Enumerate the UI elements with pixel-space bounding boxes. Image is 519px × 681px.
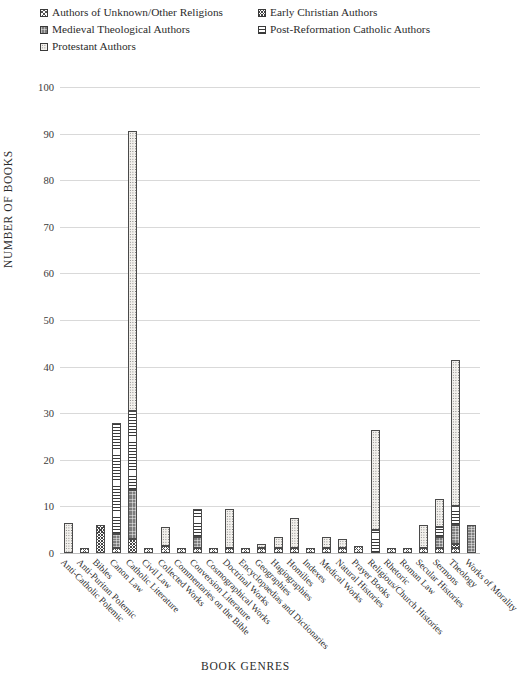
bar-natural-histories[interactable]	[338, 539, 347, 553]
y-axis-ticks: 0102030405060708090100	[24, 87, 54, 553]
bar-segment-medieval	[467, 525, 476, 553]
bar-geographies[interactable]	[257, 544, 266, 553]
bar-slot	[76, 87, 92, 553]
bar-slot	[92, 87, 108, 553]
bar-slot	[205, 87, 221, 553]
y-tick-label-40: 40	[28, 361, 54, 372]
bar-segment-protestant	[419, 525, 428, 548]
bar-segment-early	[96, 525, 105, 553]
y-tick-label-70: 70	[28, 221, 54, 232]
bar-slot	[351, 87, 367, 553]
bar-sermons[interactable]	[435, 499, 444, 553]
y-tick-label-20: 20	[28, 454, 54, 465]
bar-segment-postref	[371, 530, 380, 553]
x-axis-tick-labels: Anti-Catholic PolemicAnti-Puritan Polemi…	[60, 553, 480, 663]
bar-segment-medieval	[193, 537, 202, 549]
bar-religious-church-histories[interactable]	[371, 430, 380, 553]
bar-slot	[367, 87, 383, 553]
legend-item-early-christian-authors: Early Christian Authors	[258, 6, 377, 19]
bar-segment-unknown	[161, 546, 170, 553]
bar-series-container	[60, 87, 480, 553]
bar-slot	[448, 87, 464, 553]
legend-swatch-early-icon	[258, 9, 266, 17]
y-tick-label-30: 30	[28, 408, 54, 419]
bar-conversion-literature[interactable]	[193, 509, 202, 553]
bar-segment-postref	[451, 506, 460, 525]
legend-item-post-reformation-catholic-authors: Post-Reformation Catholic Authors	[258, 23, 430, 36]
bar-collected-works[interactable]	[161, 527, 170, 553]
y-tick-label-10: 10	[28, 501, 54, 512]
legend-label: Authors of Unknown/Other Religions	[52, 6, 223, 19]
legend-label: Protestant Authors	[52, 40, 136, 53]
y-axis-title: NUMBER OF BOOKS	[2, 150, 14, 268]
chart-legend: Authors of Unknown/Other Religions Early…	[40, 6, 480, 57]
bar-segment-unknown	[354, 546, 363, 553]
y-tick-label-50: 50	[28, 315, 54, 326]
bar-slot	[173, 87, 189, 553]
bar-segment-protestant	[451, 360, 460, 507]
legend-swatch-unknown-icon	[40, 9, 48, 17]
bar-segment-protestant	[128, 131, 137, 411]
bar-slot	[432, 87, 448, 553]
bar-segment-protestant	[225, 509, 234, 549]
bar-slot	[464, 87, 480, 553]
bar-slot	[157, 87, 173, 553]
bar-segment-medieval	[451, 525, 460, 544]
bar-prayer-books[interactable]	[354, 546, 363, 553]
bar-segment-protestant	[338, 539, 347, 548]
bar-slot	[286, 87, 302, 553]
bar-theology[interactable]	[451, 360, 460, 553]
bar-medical-works[interactable]	[322, 537, 331, 553]
bar-anti-catholic-polemic[interactable]	[64, 523, 73, 553]
legend-label: Post-Reformation Catholic Authors	[270, 23, 430, 36]
bar-slot	[189, 87, 205, 553]
bar-segment-protestant	[435, 499, 444, 527]
bar-slot	[335, 87, 351, 553]
bar-segment-postref	[112, 423, 121, 535]
bar-segment-early	[128, 539, 137, 553]
bar-segment-medieval	[112, 534, 121, 548]
legend-label: Early Christian Authors	[270, 6, 377, 19]
bar-segment-protestant	[371, 430, 380, 530]
bar-segment-protestant	[322, 537, 331, 549]
bar-slot	[383, 87, 399, 553]
bar-segment-protestant	[274, 537, 283, 549]
legend-swatch-postref-icon	[258, 26, 266, 34]
bar-segment-medieval	[128, 490, 137, 539]
legend-item-protestant-authors: Protestant Authors	[40, 40, 258, 53]
y-tick-label-80: 80	[28, 175, 54, 186]
bar-works-of-morality[interactable]	[467, 525, 476, 553]
y-tick-label-0: 0	[28, 548, 54, 559]
bar-slot	[319, 87, 335, 553]
bar-canon-law[interactable]	[112, 423, 121, 553]
bar-segment-protestant	[64, 523, 73, 553]
bar-bibles[interactable]	[96, 525, 105, 553]
legend-row: Medieval Theological Authors Post-Reform…	[40, 23, 480, 36]
bar-doctrinal-works[interactable]	[225, 509, 234, 553]
legend-row: Protestant Authors	[40, 40, 480, 53]
bar-segment-protestant	[161, 527, 170, 546]
bar-catholic-literature[interactable]	[128, 131, 137, 553]
bar-slot	[270, 87, 286, 553]
bar-segment-postref	[128, 411, 137, 490]
bar-segment-postref	[193, 509, 202, 537]
bar-hagiographies[interactable]	[274, 537, 283, 553]
legend-item-medieval-theological-authors: Medieval Theological Authors	[40, 23, 258, 36]
plot-area	[60, 87, 480, 553]
bar-slot	[141, 87, 157, 553]
legend-swatch-medieval-icon	[40, 26, 48, 34]
bar-slot	[415, 87, 431, 553]
legend-row: Authors of Unknown/Other Religions Early…	[40, 6, 480, 19]
bar-slot	[222, 87, 238, 553]
bar-segment-medieval	[435, 537, 444, 549]
bar-slot	[399, 87, 415, 553]
legend-label: Medieval Theological Authors	[52, 23, 190, 36]
legend-item-authors-of-unknown-other-religions: Authors of Unknown/Other Religions	[40, 6, 258, 19]
bar-segment-postref	[435, 527, 444, 536]
bar-secular-histories[interactable]	[419, 525, 428, 553]
y-tick-label-90: 90	[28, 128, 54, 139]
legend-swatch-protestant-icon	[40, 43, 48, 51]
bar-homilies[interactable]	[290, 518, 299, 553]
bar-slot	[238, 87, 254, 553]
